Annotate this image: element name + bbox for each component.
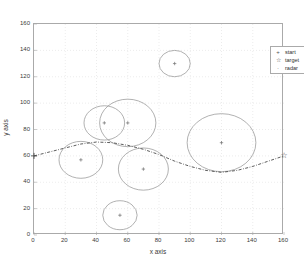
planned-path xyxy=(34,142,284,172)
legend-label: radar xyxy=(285,64,298,72)
target-marker-icon: ☆ xyxy=(280,151,287,160)
x-tick-label: 40 xyxy=(87,237,105,244)
x-tick-label: 0 xyxy=(24,237,42,244)
figure: ☆ +start☆target·radar 020406080100120140… xyxy=(0,0,304,265)
x-tick-label: 160 xyxy=(274,237,292,244)
x-tick-label: 20 xyxy=(55,237,73,244)
x-tick-label: 60 xyxy=(118,237,136,244)
x-axis-label: x axis xyxy=(33,248,283,255)
x-tick-label: 140 xyxy=(243,237,261,244)
legend-item-start: +start xyxy=(271,48,304,56)
y-tick-label: 100 xyxy=(10,99,30,106)
y-tick-label: 80 xyxy=(10,126,30,133)
y-tick-label: 120 xyxy=(10,73,30,80)
dot-marker-icon: · xyxy=(271,64,285,72)
y-tick-label: 160 xyxy=(10,20,30,27)
plot-canvas: ☆ xyxy=(34,24,284,235)
legend-item-radar: ·radar xyxy=(271,64,304,72)
y-tick-label: 20 xyxy=(10,205,30,212)
y-tick-label: 0 xyxy=(10,231,30,238)
x-tick-label: 80 xyxy=(149,237,167,244)
legend-label: start xyxy=(285,48,296,56)
y-tick-label: 60 xyxy=(10,152,30,159)
y-tick-label: 40 xyxy=(10,178,30,185)
star-marker-icon: ☆ xyxy=(271,56,285,64)
legend: +start☆target·radar xyxy=(270,46,304,74)
y-tick-label: 140 xyxy=(10,46,30,53)
y-axis-label: y axis xyxy=(2,108,9,148)
x-tick-label: 120 xyxy=(212,237,230,244)
plus-marker-icon: + xyxy=(271,48,285,56)
plot-area: ☆ +start☆target·radar xyxy=(33,23,283,234)
legend-item-target: ☆target xyxy=(271,56,304,64)
x-tick-label: 100 xyxy=(180,237,198,244)
legend-label: target xyxy=(285,56,299,64)
